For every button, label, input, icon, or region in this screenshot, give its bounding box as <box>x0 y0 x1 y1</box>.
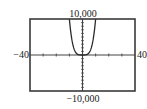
graph-window <box>0 0 147 109</box>
